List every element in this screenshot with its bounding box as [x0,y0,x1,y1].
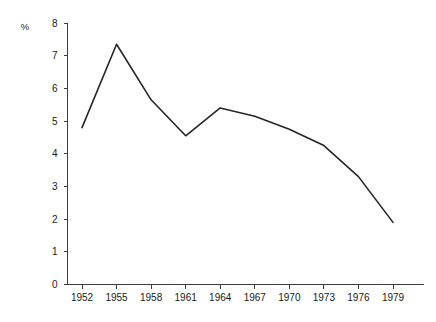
y-tick-label: 6 [52,83,58,94]
x-tick-label: 1961 [175,292,198,303]
data-series-line [82,44,393,222]
y-tick-label: 7 [52,50,58,61]
x-tick-label: 1976 [347,292,370,303]
y-tick-label: 2 [52,214,58,225]
x-tick-label: 1964 [209,292,232,303]
y-tick-label: 0 [52,279,58,290]
y-tick-label: 3 [52,181,58,192]
y-tick-label: 8 [52,18,58,29]
y-tick-label: 5 [52,116,58,127]
x-tick-label: 1967 [244,292,267,303]
x-tick-label: 1952 [71,292,94,303]
x-tick-label: 1970 [278,292,301,303]
x-tick-label: 1979 [382,292,405,303]
line-chart: 012345678 195219551958196119641967197019… [0,0,436,322]
x-tick-label: 1955 [105,292,128,303]
y-tick-label: 1 [52,246,58,257]
x-axis-ticks: 1952195519581961196419671970197319761979 [71,285,405,303]
chart-plot-area: 012345678 195219551958196119641967197019… [0,0,436,322]
y-axis-unit-label: % [21,21,30,32]
x-tick-label: 1973 [313,292,336,303]
y-tick-label: 4 [52,148,58,159]
x-tick-label: 1958 [140,292,163,303]
y-axis-ticks: 012345678 [52,18,68,291]
